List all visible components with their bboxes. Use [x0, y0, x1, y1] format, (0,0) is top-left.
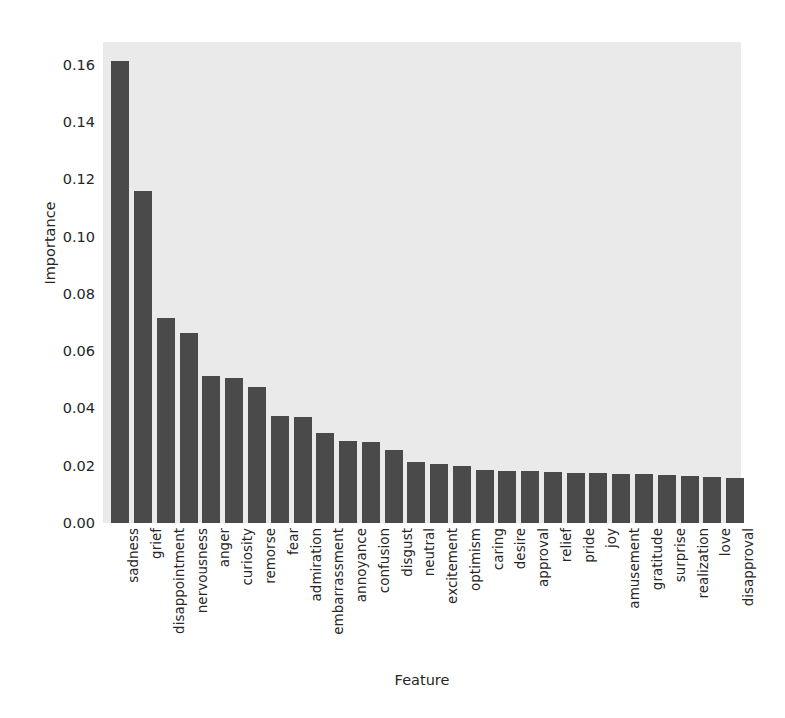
bar	[726, 478, 744, 523]
bar	[453, 466, 471, 523]
bar-slot	[382, 42, 405, 523]
bar-slot	[314, 42, 337, 523]
bar	[248, 387, 266, 523]
bar-series	[103, 42, 741, 523]
bar-slot	[132, 42, 155, 523]
x-tick-slot: relief	[542, 528, 565, 668]
bar	[157, 318, 175, 523]
x-tick-slot: approval	[519, 528, 542, 668]
bar-slot	[177, 42, 200, 523]
x-tick-slot: curiosity	[223, 528, 246, 668]
bar-slot	[155, 42, 178, 523]
bar	[658, 475, 676, 523]
y-tick-label: 0.04	[35, 400, 95, 416]
x-axis-tick-labels: sadnessgriefdisappointmentnervousnessang…	[103, 528, 741, 668]
y-tick-label: 0.06	[35, 343, 95, 359]
x-tick-slot: neutral	[405, 528, 428, 668]
x-tick-slot: pride	[564, 528, 587, 668]
bar	[430, 464, 448, 523]
x-tick-slot: disgust	[382, 528, 405, 668]
x-tick-slot: realization	[678, 528, 701, 668]
y-tick-label: 0.12	[35, 171, 95, 187]
x-tick-slot: admiration	[291, 528, 314, 668]
bar	[635, 474, 653, 523]
bar-slot	[610, 42, 633, 523]
bar	[407, 462, 425, 523]
bar-slot	[587, 42, 610, 523]
x-tick-slot: love	[701, 528, 724, 668]
bar-slot	[564, 42, 587, 523]
bar	[362, 442, 380, 523]
bar	[521, 471, 539, 523]
bar-slot	[268, 42, 291, 523]
x-tick-slot: nervousness	[177, 528, 200, 668]
y-tick-label: 0.08	[35, 286, 95, 302]
y-tick-label: 0.02	[35, 458, 95, 474]
bar	[339, 441, 357, 523]
bar	[180, 333, 198, 523]
bar	[703, 477, 721, 523]
bar-slot	[291, 42, 314, 523]
bar	[134, 191, 152, 523]
bar-slot	[724, 42, 747, 523]
bar	[544, 472, 562, 523]
x-tick-label: disapproval	[740, 528, 756, 606]
x-tick-slot: grief	[132, 528, 155, 668]
bar	[567, 473, 585, 523]
x-tick-slot: remorse	[246, 528, 269, 668]
x-tick-slot: fear	[268, 528, 291, 668]
bar-slot	[633, 42, 656, 523]
bar-slot	[428, 42, 451, 523]
bar	[111, 61, 129, 523]
y-tick-label: 0.10	[35, 229, 95, 245]
bar-slot	[405, 42, 428, 523]
bar	[385, 450, 403, 523]
x-tick-slot: amusement	[610, 528, 633, 668]
x-tick-slot: optimism	[450, 528, 473, 668]
x-tick-slot: joy	[587, 528, 610, 668]
bar	[589, 473, 607, 523]
bar	[294, 417, 312, 524]
x-tick-slot: sadness	[109, 528, 132, 668]
bar	[498, 471, 516, 523]
bar-slot	[496, 42, 519, 523]
x-tick-slot: gratitude	[633, 528, 656, 668]
y-tick-label: 0.00	[35, 515, 95, 531]
plot-area	[103, 42, 741, 523]
bar	[681, 476, 699, 523]
bar-slot	[473, 42, 496, 523]
bar-slot	[223, 42, 246, 523]
bar-chart-figure: Importance 0.000.020.040.060.080.100.120…	[0, 0, 785, 718]
x-axis-label: Feature	[103, 672, 741, 688]
bar-slot	[359, 42, 382, 523]
bar-slot	[200, 42, 223, 523]
bar-slot	[519, 42, 542, 523]
bar-slot	[109, 42, 132, 523]
bar-slot	[450, 42, 473, 523]
bar	[271, 416, 289, 523]
y-tick-label: 0.16	[35, 57, 95, 73]
bar-slot	[701, 42, 724, 523]
bar-slot	[337, 42, 360, 523]
y-tick-label: 0.14	[35, 114, 95, 130]
x-tick-slot: caring	[473, 528, 496, 668]
x-tick-slot: surprise	[655, 528, 678, 668]
x-tick-slot: confusion	[359, 528, 382, 668]
bar	[612, 474, 630, 523]
bar	[225, 378, 243, 523]
bar-slot	[246, 42, 269, 523]
x-tick-slot: disappointment	[155, 528, 178, 668]
x-tick-slot: excitement	[428, 528, 451, 668]
bar-slot	[655, 42, 678, 523]
bar	[202, 376, 220, 523]
bar-slot	[542, 42, 565, 523]
bar-slot	[678, 42, 701, 523]
bar	[316, 433, 334, 523]
x-tick-slot: disapproval	[724, 528, 747, 668]
x-tick-slot: anger	[200, 528, 223, 668]
x-tick-slot: embarrassment	[314, 528, 337, 668]
x-tick-slot: desire	[496, 528, 519, 668]
bar	[476, 470, 494, 523]
x-tick-slot: annoyance	[337, 528, 360, 668]
